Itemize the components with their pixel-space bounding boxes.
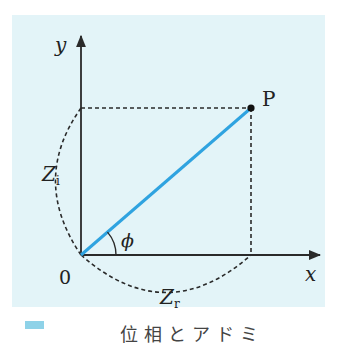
phase-angle-arc (108, 232, 117, 255)
x-axis-label: x (305, 262, 316, 286)
figure-caption: 位相とアドミ (0, 318, 361, 338)
phase-angle-label: ϕ (121, 229, 134, 251)
impedance-vector (81, 108, 251, 255)
caption-text: 位相とアドミ (120, 320, 264, 346)
origin-label: 0 (59, 266, 71, 288)
caption-marker (25, 321, 44, 329)
real-part-label: Zr (159, 285, 180, 311)
y-axis-label: y (54, 33, 67, 57)
point-p-marker (247, 104, 254, 111)
point-p-label: P (262, 87, 275, 111)
